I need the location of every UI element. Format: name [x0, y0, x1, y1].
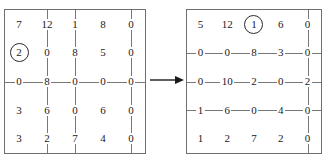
matrix-cell: 0: [294, 10, 321, 39]
matrix-cell-value: 2: [250, 76, 259, 87]
matrix-cell: 3: [267, 39, 294, 68]
matrix-cell: 3: [5, 124, 33, 153]
matrix-cell: 0: [61, 96, 89, 125]
matrix-cell: 0: [267, 67, 294, 96]
matrix-cell-value: 0: [127, 19, 136, 30]
right-arrow-icon: [150, 72, 184, 88]
matrix-cell: 2: [294, 67, 321, 96]
matrix-cell: 0: [294, 124, 321, 153]
matrix-cell: 2: [33, 124, 61, 153]
matrix-cell-value: 7: [250, 133, 259, 144]
matrix-cell-value: 1: [251, 19, 257, 30]
matrix-cell-value: 4: [277, 105, 286, 116]
matrix-cell-value: 1: [71, 19, 80, 30]
matrix-cell-value: 0: [127, 47, 136, 58]
matrix-cell: 0: [187, 67, 214, 96]
matrix-cell-value: 0: [196, 47, 205, 58]
matrix-cell: 0: [61, 67, 89, 96]
matrix-cell: 7: [241, 124, 268, 153]
matrix-cell: 4: [267, 96, 294, 125]
matrix-cell-value: 0: [223, 47, 232, 58]
matrix-cell-value: 0: [303, 19, 312, 30]
matrix-cell-value: 0: [303, 105, 312, 116]
matrix-cell: 6: [89, 96, 117, 125]
matrix-cell: 5: [187, 10, 214, 39]
matrix-cell: 0: [5, 67, 33, 96]
matrix-cell-value: 5: [99, 47, 108, 58]
matrix-cell: 3: [5, 96, 33, 125]
matrix-cell-value: 1: [196, 105, 205, 116]
matrix-cell-value: 8: [43, 76, 52, 87]
matrix-cell-value: 0: [127, 76, 136, 87]
matrix-cell-value: 12: [40, 19, 54, 30]
matrix-cell-value: 7: [15, 19, 24, 30]
matrix-cell-value: 2: [223, 133, 232, 144]
matrix-cell: 0: [214, 39, 241, 68]
matrix-cell: 5: [89, 39, 117, 68]
matrix-cell: 2: [241, 67, 268, 96]
matrix-cell-value: 0: [303, 47, 312, 58]
matrix-cell: 0: [117, 67, 145, 96]
matrix-cell: 12: [214, 10, 241, 39]
left-matrix-cells: 71218020850080003606032740: [5, 10, 145, 153]
matrix-cell-value: 0: [127, 133, 136, 144]
matrix-cell: 6: [214, 96, 241, 125]
matrix-cell: 1: [187, 124, 214, 153]
matrix-cell: 12: [33, 10, 61, 39]
matrix-cell-value: 0: [99, 76, 108, 87]
matrix-transformation-figure: 71218020850080003606032740 5121600083001…: [0, 0, 328, 163]
matrix-cell-value: 2: [303, 76, 312, 87]
matrix-cell: 0: [89, 67, 117, 96]
matrix-cell-value: 6: [43, 105, 52, 116]
matrix-cell: 2: [214, 124, 241, 153]
matrix-cell: 2: [5, 39, 33, 68]
matrix-cell-value: 3: [15, 133, 24, 144]
matrix-cell-value: 6: [277, 19, 286, 30]
matrix-cell-value: 2: [16, 47, 22, 58]
right-matrix: 512160008300102021604012720: [186, 9, 322, 154]
matrix-cell: 7: [5, 10, 33, 39]
matrix-cell-value: 0: [71, 76, 80, 87]
matrix-cell: 8: [89, 10, 117, 39]
matrix-cell-value: 0: [43, 47, 52, 58]
matrix-cell-value: 0: [127, 105, 136, 116]
matrix-cell: 6: [33, 96, 61, 125]
matrix-cell-value: 0: [15, 76, 24, 87]
matrix-cell-value: 3: [15, 105, 24, 116]
matrix-cell-value: 5: [196, 19, 205, 30]
circled-value-marker: 2: [10, 43, 29, 62]
matrix-cell: 0: [117, 10, 145, 39]
matrix-cell: 0: [294, 39, 321, 68]
matrix-cell: 2: [267, 124, 294, 153]
matrix-cell-value: 10: [220, 76, 234, 87]
circled-value-marker: 1: [244, 15, 263, 34]
matrix-cell: 0: [117, 96, 145, 125]
matrix-cell-value: 3: [277, 47, 286, 58]
matrix-cell: 8: [61, 39, 89, 68]
matrix-cell-value: 0: [277, 76, 286, 87]
matrix-cell-value: 0: [303, 133, 312, 144]
matrix-cell-value: 12: [220, 19, 234, 30]
matrix-cell: 10: [214, 67, 241, 96]
matrix-cell: 8: [241, 39, 268, 68]
matrix-cell-value: 4: [99, 133, 108, 144]
matrix-cell-value: 0: [250, 105, 259, 116]
matrix-cell-value: 6: [223, 105, 232, 116]
matrix-cell: 0: [241, 96, 268, 125]
matrix-cell-value: 7: [71, 133, 80, 144]
matrix-cell-value: 1: [196, 133, 205, 144]
matrix-cell: 4: [89, 124, 117, 153]
matrix-cell-value: 8: [250, 47, 259, 58]
matrix-cell-value: 0: [196, 76, 205, 87]
right-matrix-cells: 512160008300102021604012720: [187, 10, 321, 153]
matrix-cell: 1: [187, 96, 214, 125]
matrix-cell-value: 8: [99, 19, 108, 30]
matrix-cell: 0: [33, 39, 61, 68]
matrix-cell-value: 6: [99, 105, 108, 116]
matrix-cell: 1: [241, 10, 268, 39]
matrix-cell: 7: [61, 124, 89, 153]
matrix-cell: 8: [33, 67, 61, 96]
matrix-cell-value: 8: [71, 47, 80, 58]
matrix-cell: 6: [267, 10, 294, 39]
matrix-cell-value: 2: [277, 133, 286, 144]
